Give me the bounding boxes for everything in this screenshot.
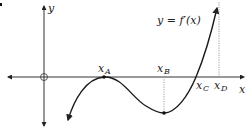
svg-text:C: C	[203, 84, 209, 93]
y-axis-label: y	[47, 2, 55, 15]
label-xd: x D	[214, 79, 228, 93]
svg-text:x: x	[157, 62, 164, 75]
svg-text:x: x	[98, 62, 105, 75]
svg-text:x: x	[214, 79, 221, 92]
corner-mark	[0, 3, 2, 6]
svg-text:D: D	[220, 84, 228, 93]
point-xb-min	[162, 111, 166, 115]
curve-label: y = f′(x)	[156, 14, 201, 27]
label-xa: x A	[98, 62, 111, 76]
x-axis-label: x	[239, 83, 246, 96]
label-xb: x B	[157, 62, 170, 76]
svg-text:B: B	[163, 67, 170, 76]
svg-text:x: x	[196, 79, 203, 92]
label-xc: x C	[196, 79, 209, 93]
derivative-graph: y x y = f′(x) x A x B x C x D	[0, 0, 252, 131]
svg-text:A: A	[104, 67, 111, 76]
